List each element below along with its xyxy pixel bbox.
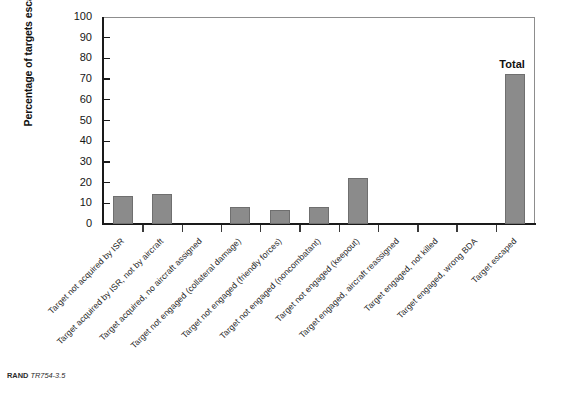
source-note-org: RAND (7, 371, 28, 380)
figure-container: Percentage of targets escaping 010203040… (0, 0, 567, 407)
total-annotation: Total (499, 58, 524, 70)
source-note: RAND TR754-3.5 (7, 371, 65, 380)
source-note-id: TR754-3.5 (30, 371, 65, 380)
annotations-layer: Total (0, 0, 567, 407)
